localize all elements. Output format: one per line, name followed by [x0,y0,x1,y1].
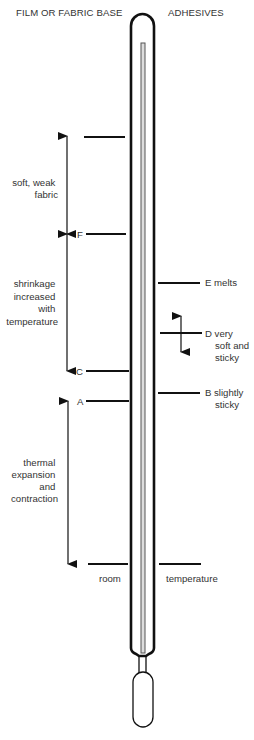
range-label-line: fabric [35,189,59,200]
right-markers: E melts D very soft and sticky B slightl… [158,277,252,564]
thermometer-neck [139,656,146,673]
range-label-line: contraction [11,493,58,504]
room-label: room [99,573,121,584]
range-label-line: increased [14,291,56,302]
range-label-line: soft, weak [12,177,55,188]
marker-label-d-line: D very [205,328,233,339]
thermometer-diagram: FILM OR FABRIC BASE ADHESIVES F C A E me… [0,0,254,740]
thermometer-capillary [141,43,145,653]
range-label-soft-weak-fabric: soft, weak fabric [12,177,58,200]
range-label-line: shrinkage [14,278,56,289]
marker-label-f: F [77,229,83,240]
header-adhesives: ADHESIVES [168,7,224,18]
marker-label-e: E melts [205,277,237,288]
range-label-thermal-expansion: thermal expansion and contraction [11,457,58,504]
left-markers: F C A [76,137,129,564]
marker-label-d-line: soft and [215,340,249,351]
header-film-or-fabric-base: FILM OR FABRIC BASE [16,7,122,18]
marker-label-b: B slightly sticky [205,387,246,410]
marker-label-b-line: B slightly [205,387,244,398]
marker-label-a: A [77,396,84,407]
marker-label-d: D very soft and sticky [205,328,252,363]
range-label-line: expansion [12,469,56,480]
marker-label-b-line: sticky [215,399,239,410]
thermometer-bulb [133,672,153,727]
range-label-line: temperature [6,316,58,327]
marker-label-d-line: sticky [215,352,239,363]
thermometer [131,14,154,727]
range-label-line: with [37,303,55,314]
range-label-line: and [39,481,55,492]
range-arrows: soft, weak fabric shrinkage increased wi… [6,136,68,564]
range-label-line: thermal [23,457,55,468]
marker-label-c: C [76,366,83,377]
range-label-shrinkage: shrinkage increased with temperature [6,278,58,327]
marker-label-e-line: E melts [205,277,237,288]
temperature-label: temperature [166,573,218,584]
